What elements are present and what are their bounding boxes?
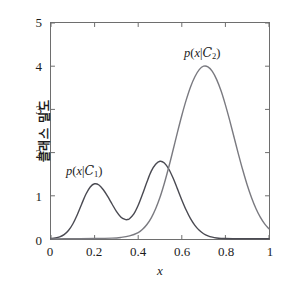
figure-container: 0 1 2 3 4 5 0 0.2 0.4 0.6 0.8 1 x 클래스 밀도… [0,0,294,285]
y-axis-title: 클래스 밀도 [35,100,52,162]
plot-svg [51,23,269,239]
xtick-label-3: 0.6 [174,245,190,258]
xtick-label-5: 1 [267,245,274,258]
x-axis-title: x [157,263,163,279]
density-curve-2 [51,66,269,239]
ytick-label-1: 1 [36,190,43,203]
tick-marks [51,23,269,239]
curve-label-class2: p(x|C2) [184,45,221,61]
xtick-label-1: 0.2 [86,245,102,258]
plot-area [50,22,270,240]
ytick-label-4: 4 [36,59,43,72]
xtick-label-4: 0.8 [218,245,234,258]
xtick-label-0: 0 [47,245,54,258]
curve-label-class1: p(x|C1) [66,163,103,179]
density-curves [51,66,269,239]
ytick-label-5: 5 [36,16,43,29]
ytick-label-0: 0 [36,234,43,247]
xtick-label-2: 0.4 [130,245,146,258]
